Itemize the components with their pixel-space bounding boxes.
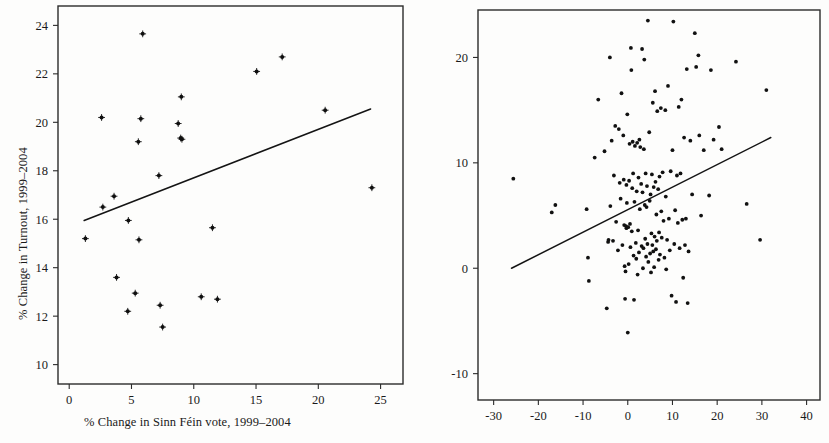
data-point (648, 252, 652, 256)
data-point (124, 308, 131, 315)
data-point-dot (662, 219, 666, 223)
data-point-dot (664, 267, 668, 271)
data-point (693, 31, 697, 35)
data-point-dot (651, 101, 655, 105)
data-point-dot (702, 148, 706, 152)
data-point (720, 147, 724, 151)
data-point (646, 19, 650, 23)
data-point-dot (646, 242, 650, 246)
data-point (679, 171, 683, 175)
data-point-dot (631, 140, 635, 144)
data-point (652, 185, 656, 189)
data-point (626, 331, 630, 335)
data-point (621, 243, 625, 247)
data-point (629, 46, 633, 50)
data-point (640, 47, 644, 51)
data-point-dot (637, 138, 641, 142)
data-point (694, 65, 698, 69)
data-point (635, 189, 639, 193)
y-tick-label: 24 (36, 19, 49, 33)
data-point (625, 112, 629, 116)
data-point-dot (550, 210, 554, 214)
data-point (646, 242, 650, 246)
data-point-dot (657, 258, 661, 262)
data-point (585, 207, 589, 211)
data-point (709, 68, 713, 72)
data-point (627, 179, 631, 183)
data-point (661, 170, 665, 174)
data-point-dot (622, 178, 626, 182)
data-point-dot (682, 136, 686, 140)
x-tick-label: 15 (250, 393, 263, 407)
data-point (645, 184, 649, 188)
data-point (664, 267, 668, 271)
data-point-dot (650, 243, 654, 247)
y-tick-label: -10 (451, 367, 468, 381)
data-point (712, 138, 716, 142)
data-point (178, 93, 185, 100)
data-point (672, 242, 676, 246)
data-point-dot (758, 238, 762, 242)
data-point-dot (612, 174, 616, 178)
data-point (654, 213, 658, 217)
data-point (639, 182, 643, 186)
data-point (682, 136, 686, 140)
data-point (617, 127, 621, 131)
data-point (111, 193, 118, 200)
data-point-dot (618, 181, 622, 185)
data-point (764, 88, 768, 92)
data-point (636, 273, 640, 277)
data-point (634, 241, 638, 245)
data-point-dot (656, 187, 660, 191)
data-point-dot (650, 173, 654, 177)
data-point-dot (632, 298, 636, 302)
data-point (638, 207, 642, 211)
x-tick-label: 20 (711, 409, 724, 423)
data-point (644, 171, 648, 175)
data-point (113, 274, 120, 281)
data-point (652, 265, 656, 269)
regression-line (512, 138, 771, 269)
data-point-dot (608, 56, 612, 60)
data-point (636, 228, 640, 232)
data-point (665, 238, 669, 242)
data-point (644, 255, 648, 259)
x-tick-label: 10 (666, 409, 679, 423)
data-point (655, 239, 659, 243)
data-point (666, 84, 670, 88)
data-point-dot (637, 251, 641, 255)
data-point-dot (645, 184, 649, 188)
x-tick-label: 40 (800, 409, 813, 423)
data-point (132, 290, 139, 297)
data-point-dot (649, 271, 653, 275)
data-point (550, 210, 554, 214)
data-point (657, 231, 661, 235)
data-point-dot (720, 147, 724, 151)
data-point-dot (607, 238, 611, 242)
data-point-dot (586, 256, 590, 260)
data-point-dot (596, 98, 600, 102)
data-point (641, 190, 645, 194)
data-point-dot (641, 266, 645, 270)
data-point (717, 125, 721, 129)
data-point (697, 134, 701, 138)
data-point-dot (646, 260, 650, 264)
data-point-dot (639, 182, 643, 186)
data-point (616, 248, 620, 252)
data-point (668, 248, 672, 252)
data-point-dot (611, 239, 615, 243)
data-point-dot (690, 193, 694, 197)
data-point-dot (697, 134, 701, 138)
data-point-dot (634, 241, 638, 245)
data-point-dot (636, 228, 640, 232)
data-point (676, 221, 680, 225)
data-point (322, 107, 329, 114)
data-point (745, 202, 749, 206)
data-point-dot (635, 189, 639, 193)
data-point-dot (654, 247, 658, 251)
data-point-dot (636, 273, 640, 277)
data-point (198, 293, 205, 300)
data-point (657, 258, 661, 262)
data-point (608, 56, 612, 60)
data-point (659, 106, 663, 110)
